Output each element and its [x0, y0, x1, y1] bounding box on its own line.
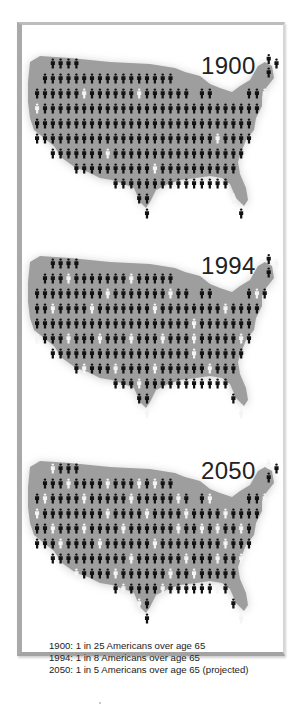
map-panel-2050: 2050	[0, 427, 305, 632]
elderly-person-icon	[216, 583, 220, 593]
year-label: 2050	[201, 457, 256, 485]
elderly-person-icon	[145, 408, 149, 418]
person-icon	[216, 178, 220, 188]
caption-2050: 2050: 1 in 5 Americans over age 65 (proj…	[49, 664, 248, 676]
person-icon	[208, 583, 212, 593]
person-icon	[145, 208, 149, 218]
person-icon	[192, 378, 196, 388]
person-icon	[51, 148, 55, 158]
person-icon	[267, 254, 271, 264]
elderly-person-icon	[35, 333, 39, 343]
person-icon	[208, 178, 212, 188]
person-icon	[200, 378, 204, 388]
person-icon	[192, 583, 196, 593]
person-icon	[51, 348, 55, 358]
elderly-person-icon	[274, 258, 278, 268]
person-icon	[200, 178, 204, 188]
caption-1900: 1900: 1 in 25 Americans over age 65	[49, 640, 248, 652]
person-icon	[267, 54, 271, 64]
elderly-person-icon	[239, 408, 243, 418]
us-map-1994	[0, 222, 305, 427]
person-icon	[192, 178, 196, 188]
year-label: 1994	[201, 252, 256, 280]
caption: 1900: 1 in 25 Americans over age 65 1994…	[49, 640, 248, 676]
person-icon	[145, 613, 149, 623]
person-icon	[274, 58, 278, 68]
map-panel-1900: 1900	[0, 22, 305, 227]
person-icon	[216, 378, 220, 388]
caption-1994: 1994: 1 in 8 Americans over age 65	[49, 652, 248, 664]
map-panel-1994: 1994	[0, 222, 305, 427]
person-icon	[200, 583, 204, 593]
person-icon	[35, 133, 39, 143]
elderly-person-icon	[267, 459, 271, 469]
elderly-person-icon	[239, 613, 243, 623]
person-icon	[208, 378, 212, 388]
person-icon	[51, 553, 55, 563]
us-map-1900	[0, 22, 305, 227]
person-icon	[274, 463, 278, 473]
year-label: 1900	[201, 52, 256, 80]
person-icon	[35, 538, 39, 548]
person-icon	[239, 208, 243, 218]
us-map-2050	[0, 427, 305, 632]
